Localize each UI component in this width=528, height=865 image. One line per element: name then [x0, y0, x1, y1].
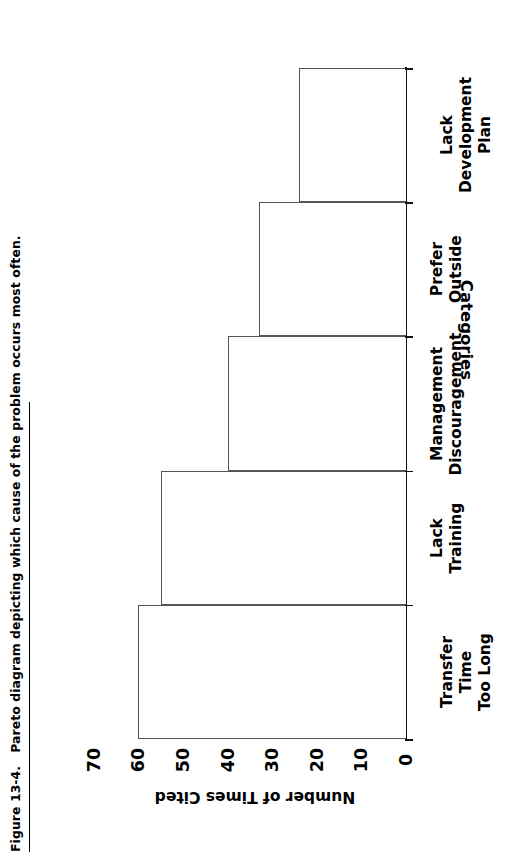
category-label-line: Time: [457, 597, 476, 747]
value-tick-label-60: 60: [123, 740, 153, 780]
category-label-line: Plan: [476, 60, 495, 210]
category-tick: [405, 202, 413, 204]
category-label-2: LackTraining: [428, 463, 466, 613]
category-label-line: Development: [457, 60, 476, 210]
category-label-1: TransferTimeToo Long: [438, 597, 495, 747]
value-tick-label-10: 10: [346, 740, 376, 780]
bar-3: [228, 336, 406, 470]
value-axis-title: Number of Times Cited: [95, 788, 415, 806]
value-tick-label-20: 20: [302, 740, 332, 780]
value-tick-label-30: 30: [257, 740, 287, 780]
category-label-line: Too Long: [476, 597, 495, 747]
category-tick: [405, 68, 413, 70]
value-tick-label-0: 0: [391, 740, 421, 780]
category-label-line: Transfer: [438, 597, 457, 747]
category-tick: [405, 471, 413, 473]
bar-2: [161, 471, 406, 605]
bar-4: [259, 202, 406, 336]
category-label-5: LackDevelopmentPlan: [438, 60, 495, 210]
value-tick-label-40: 40: [213, 740, 243, 780]
category-tick: [405, 605, 413, 607]
bar-5: [299, 68, 406, 202]
category-label-line: Lack: [428, 463, 447, 613]
value-tick-label-50: 50: [168, 740, 198, 780]
category-label-line: Lack: [438, 60, 457, 210]
category-axis-title: Categories: [454, 255, 478, 405]
category-tick: [405, 336, 413, 338]
value-tick-label-70: 70: [79, 740, 109, 780]
pareto-chart: 706050403020100 TransferTimeToo LongLack…: [0, 0, 528, 865]
category-label-line: Training: [447, 463, 466, 613]
category-label-line: Prefer: [428, 194, 447, 344]
category-label-line: Management: [428, 329, 447, 479]
bar-1: [138, 605, 406, 739]
